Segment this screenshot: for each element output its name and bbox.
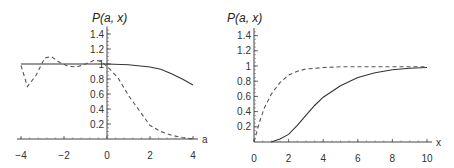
y-tick-label: 0.2: [90, 119, 104, 130]
y-tick-label: 1: [245, 61, 251, 72]
x-tick-label: 10: [421, 153, 433, 164]
y-tick-label: 1.2: [90, 44, 104, 55]
y-tick-label: 0.6: [237, 91, 251, 102]
series-solid-line: [271, 68, 427, 143]
y-tick-label: 0.4: [237, 106, 251, 117]
x-tick-label: 0: [251, 153, 257, 164]
x-axis-label: a: [202, 134, 208, 145]
x-tick-label: 8: [390, 153, 396, 164]
y-tick-label: 1.4: [90, 29, 104, 40]
x-tick-label: 6: [355, 153, 361, 164]
y-axis-label: P(a, x): [92, 11, 127, 25]
x-tick-label: −2: [58, 150, 70, 161]
y-tick-label: 0.8: [237, 76, 251, 87]
x-tick-label: 2: [286, 153, 292, 164]
x-tick-label: 4: [320, 153, 326, 164]
x-tick-label: −4: [15, 150, 27, 161]
y-tick-label: 1.2: [237, 45, 251, 56]
y-tick-label: 0.4: [90, 104, 104, 115]
x-tick-label: 2: [147, 150, 153, 161]
y-axis-label: P(a, x): [227, 11, 262, 25]
y-tick-label: 1.4: [237, 30, 251, 41]
chart-figure: 0.20.40.60.811.21.4−4−2024aP(a, x)0.20.4…: [0, 0, 454, 168]
y-tick-label: 0.6: [90, 89, 104, 100]
series-dashed-line: [254, 67, 427, 142]
x-tick-label: 4: [190, 150, 196, 161]
x-tick-label: 0: [104, 150, 110, 161]
y-tick-label: 0.8: [90, 74, 104, 85]
y-tick-label: 0.2: [237, 121, 251, 132]
x-axis-label: x: [436, 137, 441, 148]
